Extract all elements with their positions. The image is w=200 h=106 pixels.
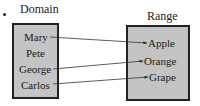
arrow-mary-apple xyxy=(50,37,147,43)
arrow-carlos-grape xyxy=(53,77,148,84)
mapping-arrows xyxy=(0,0,200,106)
arrow-george-orange xyxy=(53,61,143,69)
